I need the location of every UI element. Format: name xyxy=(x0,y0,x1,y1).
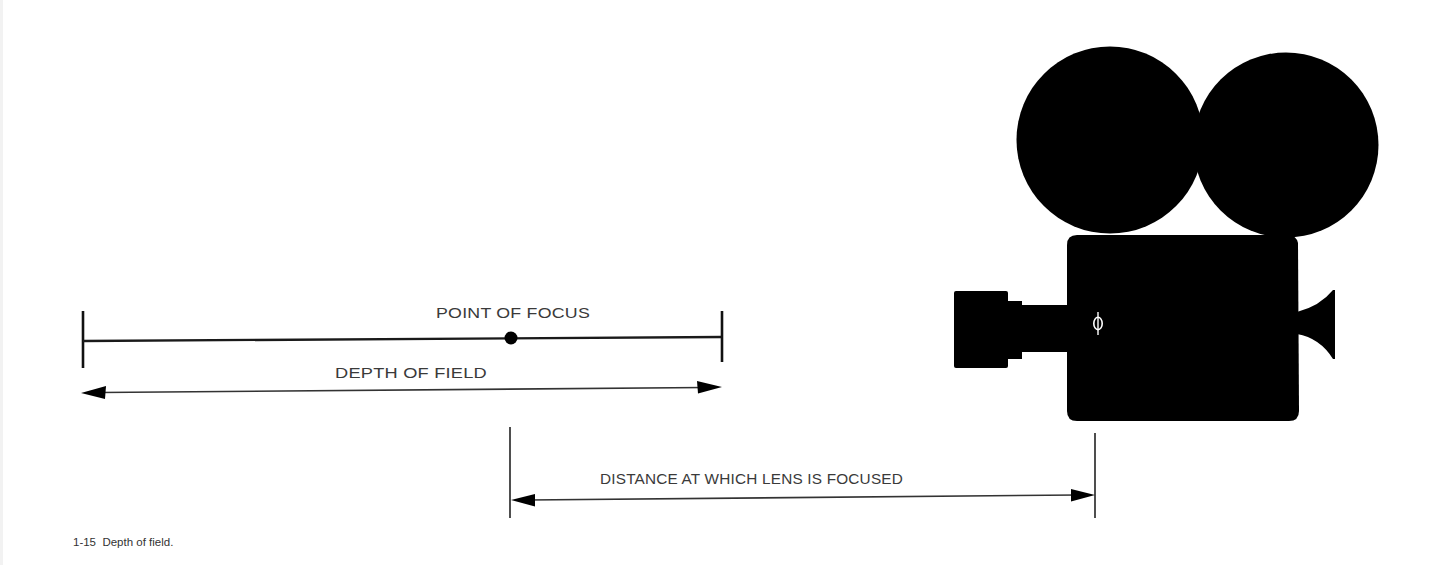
depth-of-field-diagram: POINT OF FOCUS DEPTH OF FIELD DISTANCE A… xyxy=(0,0,1455,565)
figure-caption: 1-15 Depth of field. xyxy=(73,536,173,548)
depth-of-field-range: POINT OF FOCUS xyxy=(83,304,722,368)
point-of-focus-label: POINT OF FOCUS xyxy=(436,304,590,321)
distance-arrow-shaft xyxy=(528,495,1078,500)
lens-step xyxy=(1006,301,1022,359)
depth-of-field-arrow: DEPTH OF FIELD xyxy=(81,364,722,399)
arrowhead-left-icon xyxy=(81,386,106,399)
arrowhead-right-icon xyxy=(697,381,722,394)
arrowhead-right-icon xyxy=(1071,489,1095,502)
rear-film-reel xyxy=(1194,53,1379,238)
arrowhead-left-icon xyxy=(511,494,535,507)
focus-distance-measure: DISTANCE AT WHICH LENS IS FOCUSED xyxy=(510,427,1095,518)
dof-arrow-shaft xyxy=(100,388,705,393)
lens-barrel xyxy=(1020,305,1070,352)
point-of-focus-dot xyxy=(505,332,518,345)
lens-front xyxy=(954,291,1008,368)
rear-eyepiece xyxy=(1297,290,1335,359)
front-film-reel xyxy=(1017,47,1204,234)
focus-distance-label: DISTANCE AT WHICH LENS IS FOCUSED xyxy=(600,470,903,487)
dof-range-line xyxy=(83,337,722,341)
movie-camera-icon xyxy=(954,47,1379,422)
depth-of-field-label: DEPTH OF FIELD xyxy=(335,364,487,381)
